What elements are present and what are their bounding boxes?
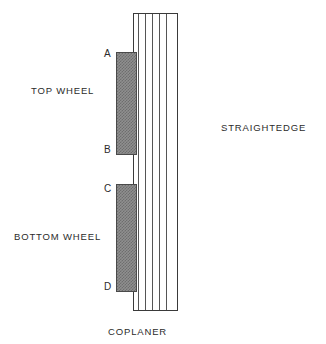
point-label-a: A [104, 49, 111, 59]
straightedge-bar [133, 13, 178, 311]
straightedge-hairline-1 [138, 14, 139, 310]
diagram-title: COPLANER [108, 327, 167, 337]
straightedge-label: STRAIGHTEDGE [221, 123, 306, 133]
top-wheel-label: TOP WHEEL [31, 86, 94, 96]
straightedge-hairline-4 [159, 14, 160, 310]
coplaner-diagram: A B C D TOP WHEEL BOTTOM WHEEL STRAIGHTE… [0, 0, 326, 344]
top-wheel-block [116, 52, 137, 155]
point-label-d: D [104, 282, 111, 292]
bottom-wheel-label: BOTTOM WHEEL [14, 232, 101, 242]
point-label-b: B [104, 145, 111, 155]
straightedge-hairline-2 [145, 14, 146, 310]
straightedge-hairline-5 [166, 14, 167, 310]
straightedge-hairline-3 [152, 14, 153, 310]
point-label-c: C [104, 184, 111, 194]
bottom-wheel-block [116, 184, 137, 292]
